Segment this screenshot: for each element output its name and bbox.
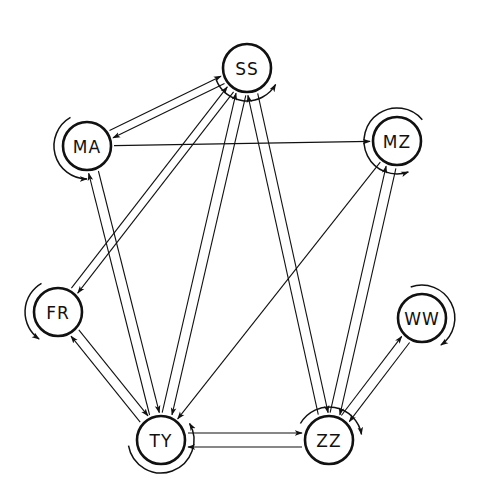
edge-ty-to-ma <box>89 173 150 415</box>
node-label: WW <box>404 309 440 329</box>
node-ma: MA <box>63 122 111 170</box>
node-label: MA <box>73 137 101 157</box>
node-label: MZ <box>383 132 411 152</box>
edge-ss-to-fr <box>78 92 234 293</box>
node-fr: FR <box>34 288 82 336</box>
node-ty: TY <box>137 416 185 464</box>
node-ww: WW <box>398 294 446 342</box>
edge-zz-to-mz <box>330 166 386 412</box>
edge-ss-to-zz <box>258 93 328 412</box>
edge-zz-to-ww <box>341 336 401 415</box>
edge-fr-to-ss <box>71 87 227 288</box>
node-zz: ZZ <box>305 416 353 464</box>
edge-mz-to-zz <box>340 168 396 414</box>
node-label: ZZ <box>316 431 341 451</box>
edges-layer <box>71 76 410 447</box>
node-mz: MZ <box>373 117 421 165</box>
edge-ty-to-ss <box>162 93 236 412</box>
nodes-layer: SSMAMZFRWWTYZZ <box>34 44 446 464</box>
state-transition-diagram: SSMAMZFRWWTYZZ <box>0 0 488 502</box>
edge-mz-to-ty <box>178 162 381 419</box>
edge-ty-to-fr <box>71 336 140 422</box>
node-label: FR <box>46 303 70 323</box>
edge-ma-to-ty <box>98 171 159 413</box>
edge-ma-to-mz <box>114 141 370 145</box>
edge-ss-to-ma <box>113 83 225 137</box>
node-label: TY <box>149 431 173 451</box>
edge-ma-to-ss <box>110 76 222 130</box>
node-label: SS <box>235 59 259 79</box>
edge-ww-to-zz <box>349 343 409 422</box>
node-ss: SS <box>223 44 271 92</box>
edge-fr-to-ty <box>79 330 148 416</box>
